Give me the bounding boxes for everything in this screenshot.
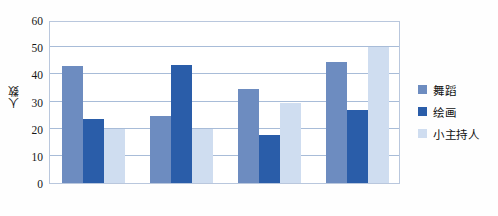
legend-swatch-icon <box>418 107 427 116</box>
legend-item[interactable]: 舞蹈 <box>418 79 494 100</box>
legend-item[interactable]: 小主持人 <box>418 123 494 144</box>
bar[interactable] <box>104 129 125 183</box>
bar[interactable] <box>62 66 83 183</box>
legend-swatch-icon <box>418 129 427 138</box>
legend-item[interactable]: 绘画 <box>418 101 494 122</box>
legend-swatch-icon <box>418 85 427 94</box>
y-axis-tick-label: 40 <box>19 69 43 81</box>
bar[interactable] <box>83 119 104 183</box>
bar[interactable] <box>280 103 301 183</box>
bar[interactable] <box>192 129 213 183</box>
bar[interactable] <box>259 135 280 183</box>
legend-label: 小主持人 <box>433 126 479 142</box>
legend-label: 舞蹈 <box>433 82 456 98</box>
bar-group <box>226 22 314 183</box>
y-axis-tick-label: 60 <box>19 15 43 27</box>
bar[interactable] <box>238 89 259 183</box>
y-axis-tick-label: 20 <box>19 124 43 136</box>
bar[interactable] <box>347 110 368 183</box>
y-axis-tick-label: 30 <box>19 97 43 109</box>
y-axis-tick-label: 50 <box>19 42 43 54</box>
bar[interactable] <box>326 62 347 183</box>
bar-group <box>138 22 226 183</box>
legend-label: 绘画 <box>433 104 456 120</box>
y-axis-tick-label: 0 <box>19 178 43 190</box>
chart-legend: 舞蹈绘画小主持人 <box>418 79 494 145</box>
bar[interactable] <box>368 47 389 183</box>
bar[interactable] <box>171 65 192 183</box>
bar-group <box>313 22 401 183</box>
bar-chart: 人数 0102030405060 舞蹈绘画小主持人 <box>0 0 498 216</box>
plot-area <box>49 21 400 184</box>
bar[interactable] <box>150 116 171 183</box>
bar-group <box>50 22 138 183</box>
bars-layer <box>50 22 399 183</box>
y-axis-tick-label: 10 <box>19 151 43 163</box>
